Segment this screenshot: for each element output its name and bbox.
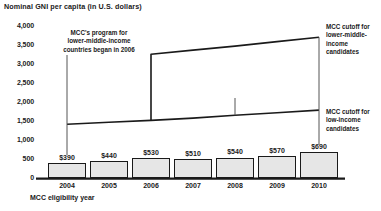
annotation-cutoff-lower-middle-line1: MCC cutoff for [326, 23, 381, 31]
annotation-program-start: MCC's program for lower-middle-income co… [52, 29, 146, 54]
annotation-program-start-line2: lower-middle-income [52, 37, 146, 45]
low-income-cutoff-line [67, 110, 319, 124]
annotation-cutoff-lower-middle: MCC cutoff for lower-middle-income candi… [326, 23, 381, 57]
annotation-cutoff-low-income-line1: MCC cutoff for [326, 108, 381, 116]
annotation-program-start-line1: MCC's program for [52, 29, 146, 37]
annotation-cutoff-lower-middle-line2: lower-middle-income [326, 31, 381, 48]
annotation-cutoff-low-income-line2: low-income [326, 116, 381, 124]
annotation-cutoff-low-income: MCC cutoff for low-income candidates [326, 108, 381, 133]
annotation-cutoff-lower-middle-line3: candidates [326, 48, 381, 56]
gni-per-capita-chart: Nominal GNI per capita (in U.S. dollars)… [0, 0, 381, 211]
annotation-program-start-line3: countries began in 2006 [52, 46, 146, 54]
annotation-cutoff-low-income-line3: candidates [326, 125, 381, 133]
